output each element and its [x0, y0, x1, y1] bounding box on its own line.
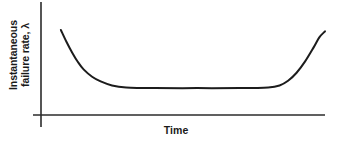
x-axis-label: Time	[0, 124, 337, 136]
y-axis-label: Instantaneous failure rate, λ	[0, 5, 42, 105]
bathtub-curve-path	[61, 30, 325, 88]
bathtub-curve-figure: Instantaneous failure rate, λ Time	[0, 0, 337, 141]
y-axis-label-line-2: failure rate, λ	[20, 23, 32, 87]
plot-area	[0, 0, 337, 141]
